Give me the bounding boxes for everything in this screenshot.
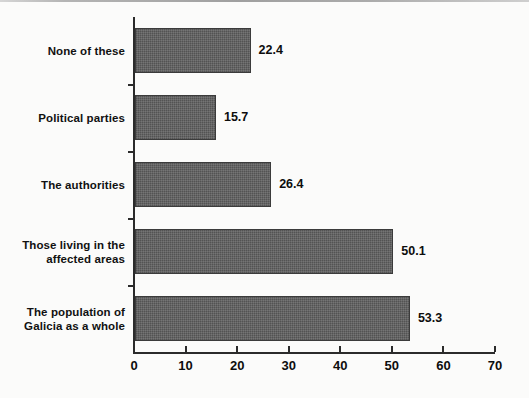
bar	[135, 95, 216, 140]
x-axis-tick	[185, 346, 187, 352]
bar	[135, 28, 251, 73]
category-label-line: The population of	[0, 305, 125, 319]
bar-value-label: 53.3	[418, 311, 442, 325]
category-label: Those living in theaffected areas	[0, 238, 125, 266]
x-axis-tick-label: 20	[222, 358, 252, 373]
plot-area: 22.4None of these15.7Political parties26…	[0, 0, 529, 398]
x-axis-tick	[339, 346, 341, 352]
x-axis-tick-label: 40	[325, 358, 355, 373]
y-axis-tick	[128, 151, 133, 153]
x-axis-line	[133, 352, 495, 354]
category-label-line: Political parties	[0, 111, 125, 125]
x-axis-tick-label: 30	[274, 358, 304, 373]
y-axis-tick	[128, 285, 133, 287]
category-label-line: affected areas	[0, 252, 125, 266]
x-axis-tick	[494, 346, 496, 352]
y-axis-tick	[128, 84, 133, 86]
category-label: The authorities	[0, 178, 125, 192]
x-axis-tick	[442, 346, 444, 352]
bar-value-label: 50.1	[401, 244, 425, 258]
category-label: None of these	[0, 44, 125, 58]
x-axis-tick	[236, 346, 238, 352]
y-axis-tick	[128, 218, 133, 220]
bar-value-label: 22.4	[259, 43, 283, 57]
category-label-line: Those living in the	[0, 238, 125, 252]
category-label: Political parties	[0, 111, 125, 125]
x-axis-tick-label: 50	[377, 358, 407, 373]
bar-value-label: 26.4	[279, 177, 303, 191]
x-axis-tick	[288, 346, 290, 352]
x-axis-tick-label: 60	[428, 358, 458, 373]
bar	[135, 229, 393, 274]
x-axis-tick	[133, 346, 135, 352]
category-label-line: The authorities	[0, 178, 125, 192]
category-label: The population ofGalicia as a whole	[0, 305, 125, 333]
bar-value-label: 15.7	[224, 110, 248, 124]
x-axis-tick	[391, 346, 393, 352]
category-label-line: None of these	[0, 44, 125, 58]
bar-chart-figure: 22.4None of these15.7Political parties26…	[0, 0, 529, 398]
bar	[135, 162, 271, 207]
bar	[135, 296, 410, 341]
category-label-line: Galicia as a whole	[0, 319, 125, 333]
x-axis-tick-label: 70	[480, 358, 510, 373]
x-axis-tick-label: 10	[171, 358, 201, 373]
x-axis-tick-label: 0	[119, 358, 149, 373]
